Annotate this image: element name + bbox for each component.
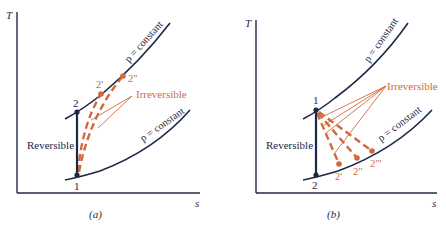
leader-line — [98, 96, 132, 128]
upper-isobar — [303, 23, 408, 119]
state-point-2p — [98, 91, 104, 97]
state-point-2ppp — [369, 148, 375, 154]
state-point-2 — [313, 172, 318, 177]
state-2-label: 2 — [312, 179, 318, 191]
state-point-1 — [313, 107, 318, 112]
state-2ppp-label: 2"' — [370, 158, 382, 169]
state-point-2p — [336, 161, 342, 167]
reversible-label: Reversible — [27, 139, 74, 151]
leader-line — [334, 86, 386, 154]
panel-b: T s (b) p = constant p = constant 1 2 2'… — [245, 16, 438, 221]
x-axis-label: s — [195, 197, 199, 209]
leader-line — [91, 96, 132, 120]
state-2p-label: 2' — [96, 79, 103, 90]
state-2pp-label: 2" — [353, 166, 363, 177]
leader-line — [324, 86, 386, 125]
state-2p-label: 2' — [335, 171, 342, 182]
upper-isobar-label: p = constant — [122, 19, 165, 65]
reversible-label: Reversible — [266, 139, 313, 151]
x-axis-label: s — [432, 197, 436, 209]
y-axis-label: T — [6, 9, 13, 21]
state-2-label: 2 — [73, 97, 79, 109]
state-1-label: 1 — [313, 94, 319, 106]
lower-isobar-label: p = constant — [138, 105, 186, 144]
irreversible-label: Irreversible — [387, 80, 438, 92]
panel-a: T s (a) p = constant p = constant 2 1 2'… — [6, 9, 200, 221]
state-2pp-label: 2" — [128, 73, 138, 84]
state-point-2pp — [354, 155, 360, 161]
irreversible-path-1-2p — [317, 113, 339, 164]
lower-isobar-label: p = constant — [376, 104, 424, 144]
irreversible-path-1-2pp — [79, 76, 123, 172]
y-axis-label: T — [245, 17, 252, 29]
state-point-1 — [74, 172, 79, 177]
irreversible-label: Irreversible — [136, 88, 187, 100]
state-point-2 — [74, 109, 79, 114]
state-point-2pp — [120, 73, 126, 79]
panel-caption: (a) — [89, 208, 102, 221]
ts-diagram-figure: T s (a) p = constant p = constant 2 1 2'… — [0, 0, 446, 232]
state-1-label: 1 — [74, 180, 80, 192]
panel-caption: (b) — [327, 208, 340, 221]
